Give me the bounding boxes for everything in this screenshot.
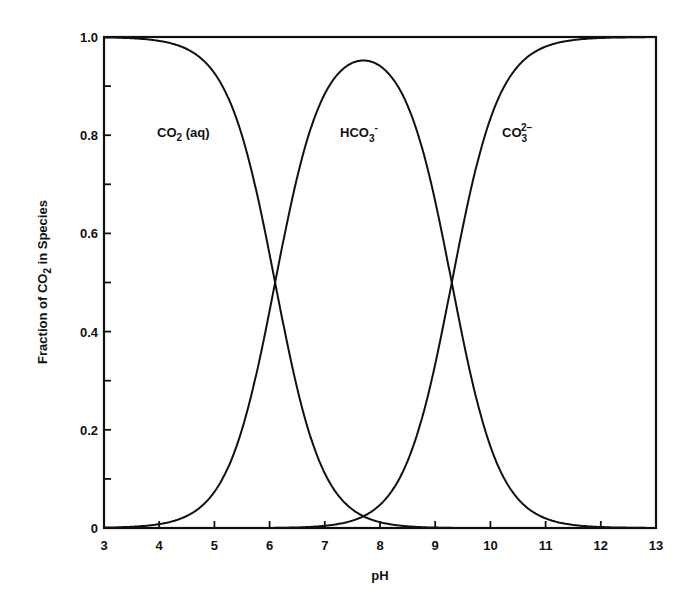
curve-co2-aq (104, 37, 656, 528)
y-tick-label: 1.0 (80, 30, 98, 45)
species-curves (104, 37, 656, 528)
x-tick-label: 9 (432, 538, 439, 553)
x-tick-label: 10 (483, 538, 497, 553)
series-label-co3: CO32− (502, 122, 533, 144)
y-tick-label: 0.4 (80, 325, 99, 340)
y-tick-label: 0.2 (80, 423, 98, 438)
x-tick-label: 3 (100, 538, 107, 553)
x-tick-label: 8 (376, 538, 383, 553)
x-tick-label: 4 (156, 538, 164, 553)
x-tick-label: 5 (211, 538, 218, 553)
y-tick-label: 0.6 (80, 226, 98, 241)
y-tick-label: 0 (91, 521, 98, 536)
curve-co3 (104, 37, 656, 528)
x-tick-label: 7 (321, 538, 328, 553)
y-tick-label: 0.8 (80, 128, 98, 143)
svg-text:Fraction of CO2 in Species: Fraction of CO2 in Species (35, 200, 53, 364)
x-tick-label: 13 (649, 538, 663, 553)
x-axis-title: pH (371, 568, 388, 583)
x-tick-label: 12 (594, 538, 608, 553)
y-axis-title: Fraction of CO2 in Species (35, 200, 53, 364)
x-tick-label: 6 (266, 538, 273, 553)
series-label-co2-aq: CO2 (aq) (157, 125, 210, 143)
plot-frame (104, 37, 656, 528)
x-tick-label: 11 (539, 538, 553, 553)
plot-border (104, 37, 656, 528)
series-label-hco3: HCO3- (340, 122, 378, 144)
y-axis-ticks: 00.20.40.60.81.0 (80, 30, 111, 536)
speciation-chart: 00.20.40.60.81.0 345678910111213 pH Frac… (0, 0, 690, 610)
